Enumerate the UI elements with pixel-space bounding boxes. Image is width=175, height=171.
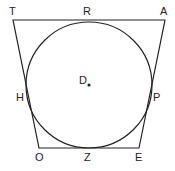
label-Z: Z [84,151,91,163]
label-T: T [9,5,16,17]
label-E: E [135,151,142,163]
label-H: H [16,91,24,103]
label-P: P [153,91,160,103]
label-O: O [35,151,44,163]
label-D: D [79,74,87,86]
label-A: A [160,5,168,17]
geometry-diagram: T R A D H P O Z E [0,0,175,171]
label-R: R [83,5,91,17]
center-point-D [87,83,90,86]
